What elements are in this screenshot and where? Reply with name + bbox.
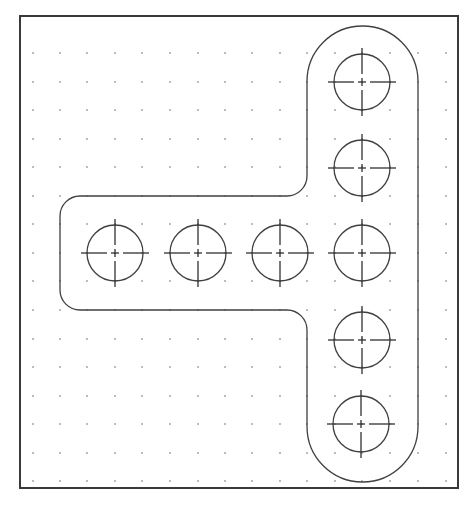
grid-dot — [197, 109, 199, 111]
hole-pattern — [81, 48, 396, 458]
grid-dot — [59, 81, 61, 83]
grid-dot — [59, 395, 61, 397]
grid-dot — [86, 223, 88, 225]
grid-dot — [251, 166, 253, 168]
grid-dot — [306, 52, 308, 54]
grid-dot — [32, 81, 34, 83]
grid-dot — [32, 109, 34, 111]
grid-dot — [59, 480, 61, 482]
grid-dot — [169, 109, 171, 111]
grid-dot — [141, 81, 143, 83]
grid-dot — [389, 138, 391, 140]
grid-dot — [114, 395, 116, 397]
grid-dot — [169, 52, 171, 54]
grid-dot — [197, 423, 199, 425]
grid-dot — [279, 81, 281, 83]
grid-dot — [86, 166, 88, 168]
grid-dot — [445, 52, 447, 54]
grid-dot — [59, 166, 61, 168]
grid-dot — [279, 166, 281, 168]
grid-dot — [306, 452, 308, 454]
grid-dot — [59, 52, 61, 54]
grid-dot — [141, 480, 143, 482]
grid-dot — [334, 309, 336, 311]
grid-dot — [334, 480, 336, 482]
grid-dot — [197, 138, 199, 140]
grid-dot — [224, 81, 226, 83]
hole-h-left-3[interactable] — [246, 219, 314, 287]
grid-dot — [334, 138, 336, 140]
grid-dot — [334, 366, 336, 368]
hole-h-left-1[interactable] — [81, 219, 149, 287]
grid-dot — [59, 338, 61, 340]
hole-h-lower[interactable] — [328, 306, 396, 374]
drawing-canvas[interactable] — [0, 0, 475, 508]
grid-dot — [141, 366, 143, 368]
grid-dot — [224, 280, 226, 282]
grid-dot — [86, 52, 88, 54]
grid-dot — [389, 109, 391, 111]
grid-dot — [224, 109, 226, 111]
grid-dot — [169, 338, 171, 340]
grid-dot — [279, 395, 281, 397]
grid-dot — [141, 223, 143, 225]
grid-dot — [279, 366, 281, 368]
grid-dot — [224, 395, 226, 397]
grid-dot — [389, 366, 391, 368]
grid-dot — [141, 452, 143, 454]
grid-dot — [86, 81, 88, 83]
grid-dot — [32, 280, 34, 282]
grid-dot — [224, 52, 226, 54]
hole-h-bottom[interactable] — [327, 390, 395, 458]
grid-dot — [59, 423, 61, 425]
grid-dot — [306, 480, 308, 482]
grid-dot — [114, 452, 116, 454]
grid-dot — [114, 366, 116, 368]
grid-dot — [417, 480, 419, 482]
grid-dot — [32, 195, 34, 197]
grid-dot — [224, 452, 226, 454]
grid-dot — [389, 452, 391, 454]
grid-dot — [169, 395, 171, 397]
grid-dot — [224, 366, 226, 368]
grid-dot — [306, 223, 308, 225]
grid-dot — [32, 166, 34, 168]
grid-dot — [251, 395, 253, 397]
grid-dot — [169, 138, 171, 140]
grid-dot — [32, 338, 34, 340]
grid-dot — [224, 138, 226, 140]
grid-dot — [251, 138, 253, 140]
grid-dot — [169, 480, 171, 482]
grid-dot — [197, 338, 199, 340]
grid-dot — [32, 309, 34, 311]
grid-dot — [445, 395, 447, 397]
drawing-frame — [20, 16, 458, 488]
part-outline[interactable] — [60, 26, 418, 482]
grid-dot — [389, 395, 391, 397]
grid-dot — [169, 223, 171, 225]
grid-dot — [279, 52, 281, 54]
grid-dot — [114, 338, 116, 340]
grid-dot — [279, 480, 281, 482]
grid-dot — [445, 280, 447, 282]
grid-dot — [251, 480, 253, 482]
grid-dot — [169, 166, 171, 168]
grid-dot — [169, 423, 171, 425]
hole-h-center[interactable] — [328, 219, 396, 287]
grid-dot — [389, 52, 391, 54]
hole-h-top[interactable] — [328, 48, 396, 116]
grid-dot — [197, 81, 199, 83]
grid-dot — [59, 138, 61, 140]
hole-h-upper[interactable] — [328, 134, 396, 202]
grid-dot — [306, 195, 308, 197]
grid-dot — [197, 480, 199, 482]
grid-dot — [445, 366, 447, 368]
grid-dot — [169, 452, 171, 454]
grid-dot — [197, 452, 199, 454]
grid-dot — [334, 195, 336, 197]
grid-dot — [389, 223, 391, 225]
grid-dot — [445, 138, 447, 140]
grid-dot — [306, 309, 308, 311]
grid-dot — [251, 280, 253, 282]
hole-h-left-2[interactable] — [164, 219, 232, 287]
